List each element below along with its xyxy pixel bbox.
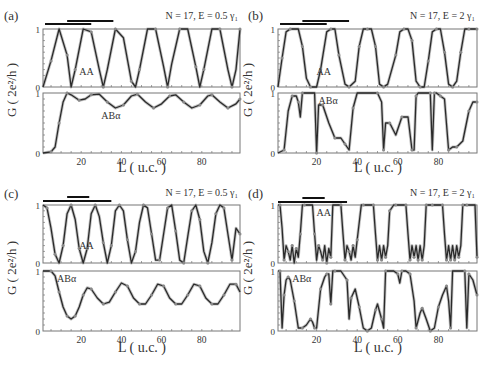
data-curve — [43, 29, 240, 87]
data-marker — [380, 259, 383, 262]
data-marker — [429, 92, 432, 95]
data-marker — [366, 28, 369, 31]
data-marker — [50, 59, 53, 62]
data-marker — [376, 259, 379, 262]
data-marker — [476, 28, 479, 31]
data-marker — [433, 92, 436, 95]
data-marker — [50, 270, 53, 273]
data-marker — [54, 253, 57, 256]
data-marker — [467, 28, 470, 31]
data-marker — [239, 28, 242, 31]
x-tick-label: 40 — [352, 157, 362, 167]
y-axis-label: G ( 2e²/h ) — [240, 241, 255, 295]
data-marker — [333, 270, 336, 273]
subplot-ab: 01ABα20406080 — [271, 89, 479, 168]
data-marker — [210, 93, 213, 96]
data-marker — [162, 285, 165, 288]
series-label: AA — [317, 66, 332, 77]
data-marker — [358, 45, 361, 48]
x-tick-label: 80 — [434, 335, 444, 345]
data-marker — [283, 259, 286, 262]
data-marker — [402, 28, 405, 31]
data-marker — [293, 300, 296, 303]
data-marker — [218, 28, 221, 31]
x-tick-label: 60 — [393, 335, 403, 345]
data-curve — [43, 93, 240, 153]
data-marker — [168, 95, 171, 98]
data-marker — [166, 86, 169, 89]
data-marker — [150, 294, 153, 297]
data-marker — [415, 95, 418, 98]
data-marker — [198, 285, 201, 288]
data-marker — [206, 262, 209, 265]
x-tick-label: 20 — [312, 335, 322, 345]
y-tick-label: 1 — [36, 267, 41, 277]
data-marker — [158, 259, 161, 262]
y-tick-label: 1 — [36, 201, 41, 211]
data-marker — [352, 244, 355, 247]
data-marker — [344, 259, 347, 262]
data-marker — [62, 244, 65, 247]
data-marker — [110, 244, 113, 247]
data-marker — [279, 270, 282, 273]
data-marker — [114, 28, 117, 31]
data-marker — [408, 273, 411, 276]
data-marker — [348, 86, 351, 89]
data-marker — [350, 297, 353, 300]
y-tick-label: 1 — [271, 25, 276, 35]
data-marker — [82, 294, 85, 297]
data-marker — [445, 285, 448, 288]
data-marker — [66, 315, 69, 318]
data-marker — [461, 204, 464, 207]
data-marker — [372, 204, 375, 207]
data-marker — [239, 233, 242, 236]
data-marker — [102, 86, 105, 89]
data-marker — [90, 30, 93, 33]
data-marker — [283, 294, 286, 297]
data-marker — [126, 238, 129, 241]
data-marker — [138, 68, 141, 71]
x-tick-label: 80 — [197, 335, 207, 345]
data-marker — [222, 294, 225, 297]
data-marker — [226, 107, 229, 110]
data-marker — [118, 204, 121, 207]
data-marker — [106, 101, 109, 104]
data-marker — [445, 259, 448, 262]
x-tick-label: 60 — [157, 335, 167, 345]
data-marker — [459, 51, 462, 54]
data-marker — [78, 99, 81, 102]
data-marker — [279, 204, 282, 207]
data-marker — [417, 259, 420, 262]
data-marker — [362, 204, 365, 207]
data-marker — [319, 288, 322, 291]
data-marker — [198, 218, 201, 221]
data-marker — [130, 80, 133, 83]
x-tick-label: 40 — [352, 335, 362, 345]
x-tick-label: 40 — [117, 335, 127, 345]
data-marker — [313, 327, 316, 330]
x-tick-label: 20 — [76, 335, 86, 345]
data-marker — [46, 206, 49, 209]
data-marker — [182, 262, 185, 265]
data-marker — [102, 303, 105, 306]
data-marker — [421, 307, 424, 310]
data-marker — [404, 204, 407, 207]
data-marker — [435, 28, 438, 31]
data-marker — [467, 273, 470, 276]
data-marker — [291, 244, 294, 247]
data-marker — [337, 54, 340, 57]
data-marker — [348, 250, 351, 253]
data-marker — [74, 315, 77, 318]
data-marker — [329, 303, 332, 306]
data-marker — [451, 86, 454, 89]
data-marker — [66, 54, 69, 57]
data-marker — [329, 256, 332, 259]
data-marker — [134, 250, 137, 253]
x-tick-label: 80 — [434, 157, 444, 167]
data-marker — [384, 256, 387, 259]
data-marker — [190, 209, 193, 212]
data-marker — [287, 250, 290, 253]
series-label: AA — [79, 66, 94, 77]
data-marker — [102, 241, 105, 244]
parameter-annotation: N = 17, E = 2 γ₁ — [410, 187, 475, 198]
